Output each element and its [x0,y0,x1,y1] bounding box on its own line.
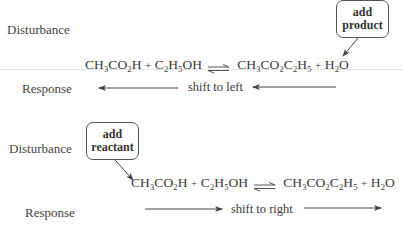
shift-right-arrow-icon [145,208,381,209]
equilibrium-arrow-icon [208,65,229,74]
equilibrium-arrow-icon [254,183,275,192]
shift-left-arrow-icon [99,87,336,88]
callout-pointer-arrow-icon [115,160,133,180]
arrows-layer [0,0,403,230]
callout-pointer-arrow-icon [343,38,358,56]
